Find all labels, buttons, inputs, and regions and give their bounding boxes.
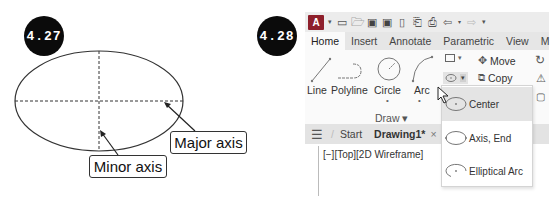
print-icon[interactable]: ⎙ xyxy=(426,15,438,29)
save-as-icon[interactable]: ▣ xyxy=(381,15,393,29)
arc-icon xyxy=(409,54,435,84)
publish-icon[interactable]: ⎗ xyxy=(411,15,423,29)
menu-item-label: Axis, End xyxy=(469,133,511,144)
move-label: Move xyxy=(490,55,516,67)
close-tab-icon[interactable]: × xyxy=(430,128,436,140)
circle-dropdown-icon[interactable]: • xyxy=(386,96,389,105)
menu-item-label: Center xyxy=(469,99,499,110)
menu-item-label: Elliptical Arc xyxy=(469,166,523,177)
figure-badge-4-28: 4.28 xyxy=(257,16,297,56)
elliptical-arc-icon xyxy=(445,163,467,179)
move-tool-button[interactable]: ✥ Move xyxy=(478,54,516,67)
app-menu-button[interactable]: A xyxy=(308,15,324,30)
minor-axis-label: Minor axis xyxy=(89,155,167,178)
mouse-cursor-icon xyxy=(437,86,451,104)
plot-preview-icon[interactable]: ▯ xyxy=(396,15,408,29)
polyline-tool-button[interactable]: Polyline xyxy=(331,84,368,96)
open-icon[interactable]: 🗁 xyxy=(351,15,363,29)
copy-icon: ⧉ xyxy=(478,72,485,84)
rectangle-tool-button[interactable]: ▾ xyxy=(445,54,462,62)
mirror-icon[interactable]: ⚠ xyxy=(536,72,546,85)
viewport-navbar xyxy=(309,146,319,196)
line-tool-button[interactable]: Line xyxy=(307,84,327,96)
tab-home[interactable]: Home xyxy=(305,32,345,50)
scale-icon[interactable]: ▢ xyxy=(536,91,545,102)
line-icon xyxy=(309,56,333,84)
tab-parametric[interactable]: Parametric xyxy=(437,32,500,50)
menu-icon[interactable]: ☰ xyxy=(311,127,323,142)
rotate-icon[interactable]: ↻ xyxy=(535,53,545,67)
polyline-icon xyxy=(335,58,367,84)
customize-icon[interactable]: ▾ xyxy=(480,15,488,29)
menu-item-axis-end[interactable]: Axis, End xyxy=(442,121,532,155)
tab-insert[interactable]: Insert xyxy=(345,32,383,50)
rectangle-icon xyxy=(445,54,455,62)
menu-item-elliptical-arc[interactable]: Elliptical Arc xyxy=(442,154,532,188)
rectangle-dropdown-icon[interactable]: ▾ xyxy=(458,54,462,62)
major-axis-label: Major axis xyxy=(170,131,247,154)
copy-label: Copy xyxy=(488,72,513,84)
redo-icon[interactable]: ⇨ xyxy=(465,15,477,29)
circle-icon xyxy=(375,54,403,84)
copy-tool-button[interactable]: ⧉ Copy xyxy=(478,72,513,84)
save-icon[interactable]: ▣ xyxy=(366,15,378,29)
doc-tab-drawing1[interactable]: Drawing1* xyxy=(374,128,425,140)
tab-more[interactable]: M xyxy=(535,32,554,50)
tab-view[interactable]: View xyxy=(500,32,535,50)
arc-tool-button[interactable]: Arc xyxy=(414,84,430,96)
doc-tab-start[interactable]: Start xyxy=(340,128,362,140)
move-icon: ✥ xyxy=(478,54,487,67)
quick-access-toolbar: A ▾ ▭ 🗁 ▣ ▣ ▯ ⎗ ⎙ ⇦ ▾ ⇨ ▾ xyxy=(305,12,549,32)
ellipse-icon xyxy=(445,73,457,83)
undo-dropdown-icon[interactable]: ▾ xyxy=(456,15,462,29)
ribbon-tabs: Home Insert Annotate Parametric View M xyxy=(305,32,549,50)
ellipse-tool-button[interactable]: ▾ xyxy=(443,72,468,84)
undo-icon[interactable]: ⇦ xyxy=(441,15,453,29)
app-menu-dropdown-icon[interactable]: ▾ xyxy=(327,15,333,29)
draw-panel-title[interactable]: Draw ▾ xyxy=(375,112,408,124)
circle-tool-button[interactable]: Circle xyxy=(374,84,401,96)
ellipse-dropdown-menu: Center Axis, End Elliptical Arc xyxy=(441,85,533,187)
tab-annotate[interactable]: Annotate xyxy=(383,32,437,50)
viewport-controls-label[interactable]: [−][Top][2D Wireframe] xyxy=(323,149,423,160)
arc-dropdown-icon[interactable]: • xyxy=(418,96,421,105)
new-icon[interactable]: ▭ xyxy=(336,15,348,29)
ellipse-dropdown-icon[interactable]: ▾ xyxy=(460,74,466,82)
menu-item-center[interactable]: Center xyxy=(442,87,532,121)
tab-separator: / xyxy=(331,128,334,140)
ellipse-axis-end-icon xyxy=(445,130,467,146)
